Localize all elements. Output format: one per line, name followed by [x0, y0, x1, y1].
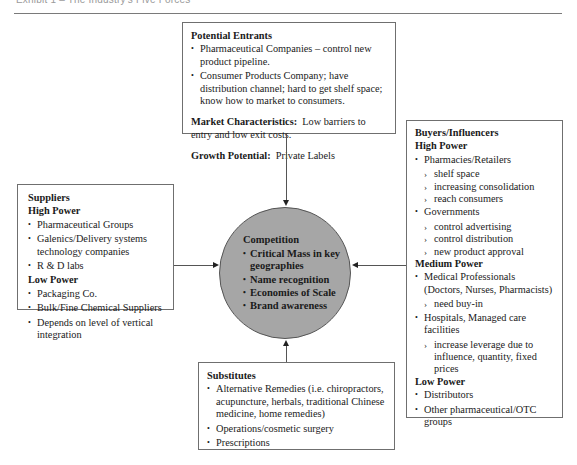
entrants-item: Pharmaceutical Companies – control new p…	[191, 43, 387, 68]
exhibit-title: Exhibit 1 – The Industry's Five Forces	[16, 0, 190, 5]
arrow-substitutes-to-competition	[286, 346, 287, 362]
buyer-subitem: new product approval	[415, 246, 554, 258]
buyer-subitem: control advertising	[415, 221, 554, 233]
buyer-item: Pharmacies/Retailers	[415, 154, 554, 166]
buyer-subitem: need buy-in	[415, 298, 554, 310]
supplier-item: Depends on level of vertical integration	[28, 317, 163, 342]
growth-potential: Growth Potential: Private Labels	[191, 150, 387, 162]
suppliers-title: Suppliers	[28, 192, 163, 204]
buyer-item: Hospitals, Managed care facilities	[415, 312, 554, 337]
substitutes-title: Substitutes	[207, 370, 386, 382]
buyer-subitem: shelf space	[415, 168, 554, 180]
market-characteristics: Market Characteristics: Low barriers to …	[191, 116, 387, 141]
arrow-entrants-to-competition	[286, 134, 287, 200]
buyer-item: Other pharmaceutical/OTC groups	[415, 404, 554, 429]
competition-item: Economies of Scale	[243, 287, 351, 299]
entrants-title: Potential Entrants	[191, 30, 387, 42]
supplier-item: Pharmaceutical Groups	[28, 219, 163, 231]
competition-circle: Competition Critical Mass in key geograp…	[219, 207, 351, 339]
arrowhead-left-icon	[352, 262, 358, 268]
buyers-low-power-label: Low Power	[415, 376, 554, 388]
suppliers-box: Suppliers High Power Pharmaceutical Grou…	[17, 184, 174, 310]
supplier-item: R & D labs	[28, 260, 163, 272]
buyer-subitem: reach consumers	[415, 193, 554, 205]
buyer-subitem: increasing consolidation	[415, 181, 554, 193]
market-label: Market Characteristics:	[191, 116, 297, 127]
substitute-item: Prescriptions	[207, 437, 386, 449]
substitutes-box: Substitutes Alternative Remedies (i.e. c…	[198, 362, 395, 450]
supplier-item: Bulk/Fine Chemical Suppliers	[28, 302, 163, 314]
buyer-item: Distributors	[415, 389, 554, 401]
competition-item: Critical Mass in key geographies	[243, 248, 351, 272]
buyer-subitem: increase leverage due to influence, quan…	[415, 339, 554, 376]
arrow-suppliers-to-competition	[174, 265, 213, 266]
buyers-high-power-label: High Power	[415, 140, 554, 152]
arrowhead-up-icon	[283, 340, 289, 346]
competition-item: Brand awareness	[243, 300, 351, 312]
arrow-buyers-to-competition	[357, 265, 406, 266]
entrants-item: Consumer Products Company; have distribu…	[191, 70, 387, 107]
suppliers-low-power-label: Low Power	[28, 274, 163, 286]
competition-title: Competition	[243, 234, 351, 246]
buyer-item: Medical Professionals (Doctors, Nurses, …	[415, 271, 554, 296]
buyers-medium-power-label: Medium Power	[415, 258, 554, 270]
growth-label: Growth Potential:	[191, 150, 271, 161]
buyers-influencers-box: Buyers/Influencers High Power Pharmacies…	[406, 120, 563, 418]
competition-item: Name recognition	[243, 274, 351, 286]
potential-entrants-box: Potential Entrants Pharmaceutical Compan…	[182, 22, 396, 134]
arrowhead-down-icon	[283, 200, 289, 206]
header-rule	[14, 13, 562, 14]
buyer-item: Governments	[415, 206, 554, 218]
substitute-item: Alternative Remedies (i.e. chiropractors…	[207, 383, 386, 420]
buyers-title: Buyers/Influencers	[415, 127, 554, 139]
substitute-item: Operations/cosmetic surgery	[207, 423, 386, 435]
buyer-subitem: control distribution	[415, 233, 554, 245]
arrowhead-right-icon	[213, 262, 219, 268]
suppliers-high-power-label: High Power	[28, 205, 163, 217]
growth-text: Private Labels	[276, 150, 335, 161]
supplier-item: Packaging Co.	[28, 288, 163, 300]
supplier-item: Galenics/Delivery systems technology com…	[28, 233, 163, 258]
